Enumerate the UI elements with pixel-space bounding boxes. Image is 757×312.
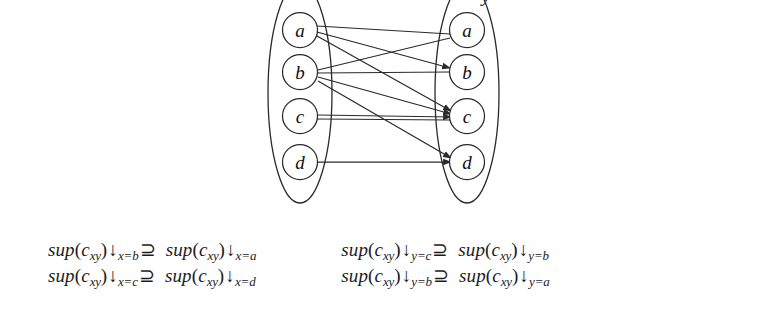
edge-La-to-Rb xyxy=(317,32,450,68)
c-variable: c xyxy=(81,265,90,287)
fn-name: sup xyxy=(458,239,485,261)
sup-term-rhs: sup(cxy)↓x=a xyxy=(166,239,257,261)
sup-term-lhs: sup(cxy)↓x=c xyxy=(48,265,138,287)
fn-name: sup xyxy=(48,265,75,287)
restriction-subscript: x=a xyxy=(236,248,257,264)
c-subscript: xy xyxy=(207,274,218,290)
fn-name: sup xyxy=(48,239,75,261)
edge-Ra-to-Lb xyxy=(318,38,450,70)
supseteq-operator: ⊇ xyxy=(432,264,451,287)
node-right-b-label: b xyxy=(462,62,472,83)
c-variable: c xyxy=(492,265,501,287)
figure-root: y a xyxy=(0,0,757,312)
edge-Ra-to-La xyxy=(317,26,450,34)
inequality-x-b-supseteq-x-a: sup(cxy)↓x=b ⊇ sup(cxy)↓x=a xyxy=(48,238,256,261)
restriction-arrow-icon: ↓ xyxy=(224,265,235,287)
inequality-x-c-supseteq-x-d: sup(cxy)↓x=c ⊇ sup(cxy)↓x=d xyxy=(48,264,256,287)
restriction-subscript: y=a xyxy=(529,274,550,290)
formula-block: sup(cxy)↓x=b ⊇ sup(cxy)↓x=a sup(cxy)↓x=c… xyxy=(0,238,757,287)
edge-Rb-to-Lb xyxy=(318,72,450,73)
restriction-arrow-icon: ↓ xyxy=(401,265,412,287)
c-variable: c xyxy=(81,239,90,261)
c-variable: c xyxy=(375,239,384,261)
c-variable: c xyxy=(492,239,501,261)
restriction-arrow-icon: ↓ xyxy=(107,265,118,287)
right-nodes: a b c d xyxy=(450,13,485,180)
c-subscript: xy xyxy=(207,248,218,264)
sup-term-rhs: sup(cxy)↓y=b xyxy=(458,239,549,261)
c-subscript: xy xyxy=(383,274,394,290)
supseteq-operator: ⊇ xyxy=(139,238,158,261)
restriction-arrow-icon: ↓ xyxy=(518,239,529,261)
edge-Lb-to-Rc xyxy=(318,77,451,114)
sup-term-rhs: sup(cxy)↓x=d xyxy=(165,265,256,287)
node-left-c-label: c xyxy=(296,106,305,127)
sup-term-lhs: sup(cxy)↓x=b xyxy=(48,239,139,261)
node-right-a-label: a xyxy=(462,20,472,41)
node-right-d-label: d xyxy=(462,152,472,173)
edge-Rc-to-Lc xyxy=(318,119,450,120)
edge-La-to-Rc xyxy=(317,36,451,111)
restriction-arrow-icon: ↓ xyxy=(518,265,529,287)
fn-name: sup xyxy=(166,239,193,261)
node-right-c-label: c xyxy=(463,106,472,127)
fn-name: sup xyxy=(341,265,368,287)
formula-column-x: sup(cxy)↓x=b ⊇ sup(cxy)↓x=a sup(cxy)↓x=c… xyxy=(48,238,256,287)
node-left-a-label: a xyxy=(295,20,305,41)
c-variable: c xyxy=(198,265,207,287)
left-nodes: a b c d xyxy=(283,13,318,180)
node-left-b-label: b xyxy=(295,62,305,83)
fn-name: sup xyxy=(165,265,192,287)
restriction-subscript: y=b xyxy=(411,274,432,290)
sup-term-lhs: sup(cxy)↓y=c xyxy=(341,239,431,261)
restriction-arrow-icon: ↓ xyxy=(225,239,236,261)
supseteq-operator: ⊇ xyxy=(431,238,450,261)
fn-name: sup xyxy=(459,265,486,287)
c-subscript: xy xyxy=(383,248,394,264)
restriction-subscript: x=d xyxy=(235,274,256,290)
restriction-arrow-icon: ↓ xyxy=(107,239,118,261)
formula-column-y: sup(cxy)↓y=c ⊇ sup(cxy)↓y=b sup(cxy)↓y=b… xyxy=(341,238,549,287)
restriction-arrow-icon: ↓ xyxy=(401,239,412,261)
node-left-d-label: d xyxy=(295,152,305,173)
restriction-subscript: y=b xyxy=(528,248,549,264)
sup-term-rhs: sup(cxy)↓y=a xyxy=(459,265,550,287)
c-variable: c xyxy=(375,265,384,287)
edge-Lc-to-Rc xyxy=(318,115,451,117)
inequality-y-c-supseteq-y-b: sup(cxy)↓y=c ⊇ sup(cxy)↓y=b xyxy=(341,238,549,261)
bipartite-graph: a b c d a b c d xyxy=(255,0,535,211)
restriction-subscript: y=c xyxy=(411,248,431,264)
inequality-y-b-supseteq-y-a: sup(cxy)↓y=b ⊇ sup(cxy)↓y=a xyxy=(341,264,549,287)
c-subscript: xy xyxy=(501,274,512,290)
c-subscript: xy xyxy=(90,274,101,290)
restriction-subscript: x=b xyxy=(118,248,139,264)
c-subscript: xy xyxy=(500,248,511,264)
c-subscript: xy xyxy=(90,248,101,264)
restriction-subscript: x=c xyxy=(118,274,138,290)
fn-name: sup xyxy=(341,239,368,261)
sup-term-lhs: sup(cxy)↓y=b xyxy=(341,265,432,287)
supseteq-operator: ⊇ xyxy=(138,264,157,287)
